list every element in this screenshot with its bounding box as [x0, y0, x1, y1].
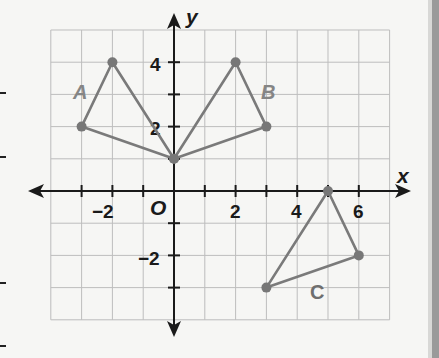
triangle-b-label: B	[261, 81, 275, 103]
triangles	[77, 57, 364, 292]
vertex-point	[231, 57, 241, 67]
page-edge-shade	[428, 0, 432, 358]
triangle-c-label: C	[310, 281, 324, 303]
triangle-c	[261, 186, 363, 293]
grid	[51, 30, 390, 320]
triangle-a-edges	[82, 62, 174, 159]
y-tick-label-4: 4	[150, 54, 161, 75]
page-edge	[432, 0, 439, 358]
origin-label: O	[150, 196, 166, 219]
vertex-point	[169, 154, 179, 164]
triangle-c-edges	[266, 191, 358, 288]
vertex-point	[107, 57, 117, 67]
x-tick-label-6: 6	[353, 201, 364, 222]
triangle-b	[169, 57, 271, 164]
vertex-point	[354, 250, 364, 260]
vertex-point	[261, 283, 271, 293]
axis-ticks	[82, 62, 359, 287]
margin-marks	[0, 93, 6, 346]
vertex-point	[323, 186, 333, 196]
triangle-a-label: A	[72, 81, 87, 103]
triangle-a	[77, 57, 179, 164]
vertex-point	[77, 122, 87, 132]
vertex-point	[261, 122, 271, 132]
axes	[28, 13, 411, 337]
x-tick-label-neg2: −2	[92, 201, 114, 222]
x-tick-label-2: 2	[230, 201, 241, 222]
y-axis-label: y	[185, 5, 199, 28]
x-axis-label: x	[396, 164, 410, 187]
y-tick-label-neg2: −2	[138, 248, 160, 269]
triangle-b-edges	[174, 62, 266, 159]
coordinate-plane-figure: y x O −2 2 4 6 4 2 −2 A B C	[0, 0, 439, 358]
coordinate-plane: y x O −2 2 4 6 4 2 −2 A B C	[0, 0, 439, 358]
x-tick-label-4: 4	[291, 201, 302, 222]
